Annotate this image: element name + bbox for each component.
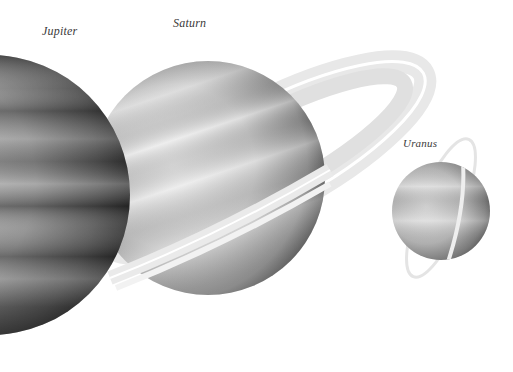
planets-svg [0, 0, 513, 372]
jupiter-label: Jupiter [42, 24, 77, 39]
saturn-label: Saturn [173, 16, 206, 31]
planets-illustration: Jupiter Saturn Uranus [0, 0, 513, 372]
jupiter-planet [0, 55, 140, 335]
uranus-label: Uranus [403, 137, 437, 149]
